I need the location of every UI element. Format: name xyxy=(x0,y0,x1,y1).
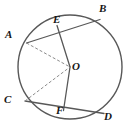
geometry-figure: A B C D E F O xyxy=(0,0,129,130)
point-label-D: D xyxy=(104,111,112,122)
point-label-B: B xyxy=(99,3,106,14)
radius-CO-dashed-line xyxy=(25,67,70,101)
point-label-C: C xyxy=(4,94,11,105)
point-label-O: O xyxy=(72,61,80,72)
point-label-E: E xyxy=(53,14,60,25)
chord-AB-line xyxy=(27,20,101,44)
point-label-A: A xyxy=(5,29,12,40)
radius-OF-line xyxy=(64,67,71,111)
point-label-F: F xyxy=(56,105,63,116)
